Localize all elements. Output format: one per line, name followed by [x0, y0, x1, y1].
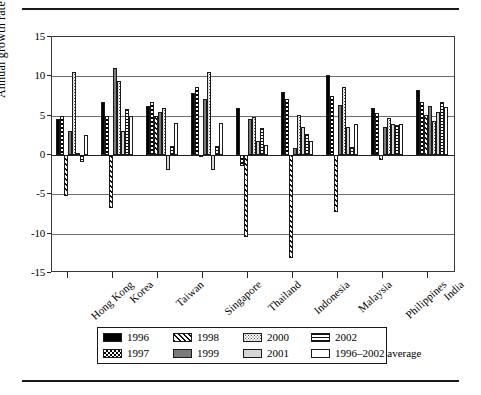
y-tick-mark — [47, 233, 51, 234]
bar — [207, 72, 211, 155]
bar — [64, 155, 68, 196]
legend-label: 1999 — [197, 348, 219, 359]
bar — [236, 108, 240, 155]
bar-group — [371, 37, 403, 271]
legend-label: 2002 — [335, 332, 357, 343]
legend: 19961998200020021997199920011996–2002 av… — [97, 327, 387, 364]
legend-swatch-icon — [311, 333, 330, 342]
y-tick-mark — [47, 115, 51, 116]
bar-group — [416, 37, 448, 271]
plot-area — [51, 36, 455, 272]
bar — [84, 135, 88, 155]
x-tick-label: Thailand — [265, 278, 303, 314]
legend-item: 1999 — [173, 348, 219, 359]
bar — [334, 155, 338, 212]
bar — [166, 155, 170, 170]
bar — [354, 124, 358, 155]
bar — [244, 155, 248, 237]
legend-label: 1998 — [197, 332, 219, 343]
legend-item: 2001 — [243, 348, 289, 359]
x-tick-label: Indonesia — [311, 278, 351, 316]
bar — [72, 72, 76, 155]
legend-label: 2000 — [267, 332, 289, 343]
y-tick-mark — [47, 36, 51, 37]
y-tick-mark — [47, 193, 51, 194]
bar — [162, 108, 166, 155]
legend-item: 1996 — [103, 332, 149, 343]
bar — [399, 124, 403, 155]
bar — [330, 96, 334, 155]
bar — [109, 155, 113, 208]
legend-swatch-icon — [311, 349, 330, 358]
bar — [285, 99, 289, 155]
bar — [129, 116, 133, 155]
legend-item: 2000 — [243, 332, 289, 343]
bar — [264, 145, 268, 155]
bar-group — [101, 37, 133, 271]
x-tick-label: Singapore — [222, 278, 264, 317]
legend-swatch-icon — [243, 349, 262, 358]
legend-item: 2002 — [311, 332, 357, 343]
legend-swatch-icon — [243, 333, 262, 342]
x-tick-label: Taiwan — [174, 278, 206, 309]
bottom-rule — [22, 380, 459, 382]
y-tick-label: 5 — [5, 110, 45, 121]
top-rule — [22, 8, 459, 10]
bar — [309, 141, 313, 155]
bar — [444, 107, 448, 155]
bar — [375, 113, 379, 155]
legend-item: 1997 — [103, 348, 149, 359]
legend-label: 1997 — [127, 348, 149, 359]
bar-group — [146, 37, 178, 271]
y-axis-title: Annual growth rate — [0, 1, 9, 98]
bar — [174, 123, 178, 155]
x-axis-labels: Hong KongKoreaTaiwanSingaporeThailandInd… — [0, 272, 481, 327]
x-tick-label: Philippines — [403, 278, 449, 321]
legend-item: 1998 — [173, 332, 219, 343]
figure: Annual growth rate 151050-5-10-15 Hong K… — [0, 0, 481, 395]
y-tick-mark — [47, 154, 51, 155]
bar — [379, 155, 383, 160]
bar-group — [281, 37, 313, 271]
y-tick-label: -10 — [5, 228, 45, 239]
bar — [219, 123, 223, 155]
bar — [105, 116, 109, 155]
legend-swatch-icon — [173, 333, 192, 342]
y-tick-label: 0 — [5, 149, 45, 160]
bar — [60, 116, 64, 155]
legend-swatch-icon — [173, 349, 192, 358]
bar — [195, 87, 199, 155]
y-tick-label: 15 — [5, 31, 45, 42]
bar-group — [191, 37, 223, 271]
y-tick-mark — [47, 75, 51, 76]
legend-swatch-icon — [103, 349, 122, 358]
bar — [211, 155, 215, 170]
legend-swatch-icon — [103, 333, 122, 342]
legend-label: 1996–2002 average — [335, 348, 421, 359]
legend-label: 2001 — [267, 348, 289, 359]
bar — [80, 155, 84, 162]
y-tick-label: -5 — [5, 188, 45, 199]
legend-item: 1996–2002 average — [311, 348, 421, 359]
x-tick-label: Hong Kong — [89, 278, 136, 322]
y-tick-label: 10 — [5, 70, 45, 81]
legend-label: 1996 — [127, 332, 149, 343]
x-tick-label: Malaysia — [355, 278, 394, 314]
bar-group — [326, 37, 358, 271]
bar — [199, 155, 203, 157]
bar — [289, 155, 293, 258]
bar-group — [56, 37, 88, 271]
bar-group — [236, 37, 268, 271]
